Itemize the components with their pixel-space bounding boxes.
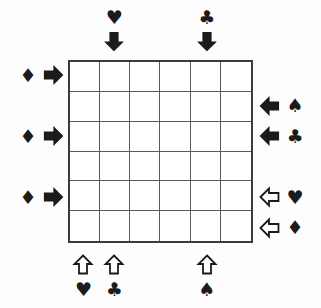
grid-cell-r2c5[interactable] xyxy=(191,92,221,122)
club-suit-icon: ♣ xyxy=(198,8,215,27)
grid-cell-r1c3[interactable] xyxy=(130,62,160,92)
grid-cell-r6c2[interactable] xyxy=(100,211,130,241)
clue-left-diamond-5[interactable]: ♦ xyxy=(19,186,64,208)
grid-cell-r4c1[interactable] xyxy=(70,152,100,182)
grid-cell-r2c4[interactable] xyxy=(160,92,190,122)
grid-cell-r3c2[interactable] xyxy=(100,122,130,152)
arrow-right-filled-icon xyxy=(43,186,65,208)
diamond-suit-icon: ♦ xyxy=(19,188,36,207)
grid-cell-r4c6[interactable] xyxy=(221,152,251,182)
club-suit-icon: ♣ xyxy=(106,280,123,299)
arrow-down-filled-icon xyxy=(103,31,125,53)
clue-right-spade-2[interactable]: ♠ xyxy=(258,95,303,117)
arrow-left-filled-icon xyxy=(258,125,280,147)
puzzle-grid[interactable] xyxy=(68,60,253,243)
grid-cell-r4c4[interactable] xyxy=(160,152,190,182)
grid-cell-r2c3[interactable] xyxy=(130,92,160,122)
grid-cell-r1c2[interactable] xyxy=(100,62,130,92)
clue-bottom-spade-5[interactable]: ♠ xyxy=(196,254,218,299)
diamond-suit-icon: ♦ xyxy=(286,218,303,237)
grid-cell-r2c6[interactable] xyxy=(221,92,251,122)
club-suit-icon: ♣ xyxy=(286,127,303,146)
clue-left-diamond-3[interactable]: ♦ xyxy=(19,125,64,147)
heart-suit-icon: ♥ xyxy=(106,8,123,27)
spade-suit-icon: ♠ xyxy=(286,96,303,115)
clue-right-heart-5[interactable]: ♥ xyxy=(258,186,303,208)
grid-cell-r5c3[interactable] xyxy=(130,181,160,211)
grid-cell-r5c6[interactable] xyxy=(221,181,251,211)
grid-cell-r1c4[interactable] xyxy=(160,62,190,92)
grid-cell-r5c5[interactable] xyxy=(191,181,221,211)
arrow-left-filled-icon xyxy=(258,95,280,117)
grid-cell-r3c1[interactable] xyxy=(70,122,100,152)
arrow-left-hollow-icon xyxy=(258,186,280,208)
grid-cell-r3c6[interactable] xyxy=(221,122,251,152)
clue-right-diamond-6[interactable]: ♦ xyxy=(258,217,303,239)
grid-cell-r4c5[interactable] xyxy=(191,152,221,182)
grid-cell-r4c2[interactable] xyxy=(100,152,130,182)
clue-right-club-3[interactable]: ♣ xyxy=(258,125,303,147)
grid-cell-r6c1[interactable] xyxy=(70,211,100,241)
clue-left-diamond-1[interactable]: ♦ xyxy=(19,64,64,86)
grid-cell-r6c4[interactable] xyxy=(160,211,190,241)
grid-cell-r6c5[interactable] xyxy=(191,211,221,241)
grid-cell-r4c3[interactable] xyxy=(130,152,160,182)
grid-cell-r1c6[interactable] xyxy=(221,62,251,92)
grid-cell-r6c3[interactable] xyxy=(130,211,160,241)
clue-top-heart-2[interactable]: ♥ xyxy=(103,8,125,53)
arrow-right-filled-icon xyxy=(43,64,65,86)
clue-bottom-club-2[interactable]: ♣ xyxy=(103,254,125,299)
grid-cell-r5c1[interactable] xyxy=(70,181,100,211)
grid-cell-r1c5[interactable] xyxy=(191,62,221,92)
grid-cell-r5c2[interactable] xyxy=(100,181,130,211)
arrow-up-hollow-icon xyxy=(103,254,125,276)
arrow-left-hollow-icon xyxy=(258,217,280,239)
arrow-up-hollow-icon xyxy=(72,254,94,276)
arrow-up-hollow-icon xyxy=(196,254,218,276)
heart-suit-icon: ♥ xyxy=(286,188,303,207)
arrow-right-filled-icon xyxy=(43,125,65,147)
puzzle-canvas: ♥♣♦♦♦♠♣♥♦♥♣♠ xyxy=(0,0,321,308)
grid-cell-r1c1[interactable] xyxy=(70,62,100,92)
spade-suit-icon: ♠ xyxy=(198,280,215,299)
clue-top-club-5[interactable]: ♣ xyxy=(196,8,218,53)
grid-cell-r5c4[interactable] xyxy=(160,181,190,211)
grid-cell-r3c5[interactable] xyxy=(191,122,221,152)
grid-cell-r2c2[interactable] xyxy=(100,92,130,122)
heart-suit-icon: ♥ xyxy=(75,280,92,299)
grid-cell-r6c6[interactable] xyxy=(221,211,251,241)
clue-bottom-heart-1[interactable]: ♥ xyxy=(72,254,94,299)
grid-cell-r3c4[interactable] xyxy=(160,122,190,152)
diamond-suit-icon: ♦ xyxy=(19,66,36,85)
grid-cell-r3c3[interactable] xyxy=(130,122,160,152)
diamond-suit-icon: ♦ xyxy=(19,127,36,146)
grid-cell-r2c1[interactable] xyxy=(70,92,100,122)
arrow-down-filled-icon xyxy=(196,31,218,53)
